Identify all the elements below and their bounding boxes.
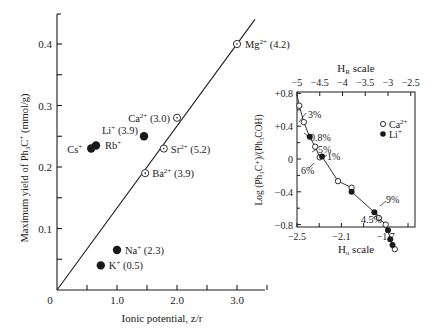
x-tick-label: 3.0 [230,294,244,306]
main-plot: 1.02.03.00.10.20.30.4 Mg2+ (4.2)Ca2+ (3.… [18,14,290,324]
top-tick-label: −4 [337,77,348,88]
data-point-center [163,148,165,150]
point-label-sr: Sr2+ (5.2) [171,143,211,156]
ho-scale-label: Ho scale [338,243,374,257]
inset-y-tick-label: −0.4 [275,187,293,198]
legend-open-marker [380,121,385,126]
origin-label: 0 [47,294,53,306]
inset-y-tick-label: 0 [288,154,293,165]
y-axis-label: Maximum yield of Ph3C+ (mmol/g) [18,93,32,243]
annotation-label: 9% [386,194,399,205]
point-label-rb: Rb+ [105,139,121,151]
y-tick-label: 0.2 [38,161,52,173]
inset-point-ca [335,178,340,183]
inset-y-tick-label: +0.4 [275,121,293,132]
annotation-label: 0.8% [310,132,331,143]
top-tick-label: −3 [383,77,394,88]
data-point-center [144,172,146,174]
data-point-filled [140,132,148,140]
data-point-center [176,117,178,119]
bottom-tick-label: −2.5 [288,231,306,242]
top-tick-label: −2.5 [402,77,420,88]
inset-point-li [390,242,396,248]
main-data-points [87,40,241,269]
inset-point-ca [297,103,302,108]
point-label-li: Li+ (3.9) [102,124,139,137]
data-point-filled [92,141,100,149]
inset-y-axis-label: Log (Ph₃C⁺)/(Ph₃COH) [254,114,265,205]
annotation-label: 6% [301,165,314,176]
point-label-mg: Mg2+ (4.2) [245,38,290,51]
data-point-center [236,43,238,45]
point-label-na: Na+ (2.3) [125,244,164,257]
point-label-ca: Ca2+ (3.0) [128,112,170,125]
annotation-label: 3% [308,109,321,120]
inset-point-ca [383,222,388,227]
legend-filled-marker [380,131,386,137]
bottom-tick-label: −2.1 [332,231,350,242]
top-tick-label: −3.5 [356,77,374,88]
inset-plot: −5−4.5−4−3.5−3−2.5−2.5−2.1−1.7+0.8+0.40−… [254,62,420,257]
x-axis-label: Ionic potential, z/r [122,312,203,324]
inset-y-tick-label: +0.8 [275,88,293,99]
y-tick-label: 0.4 [38,38,52,50]
inset-y-tick-label: −0.8 [275,220,293,231]
inset-point-ca [301,119,306,124]
data-point-filled [113,246,121,254]
y-tick-label: 0.3 [38,100,52,112]
top-tick-label: −4.5 [311,77,329,88]
inset-point-li [349,189,355,195]
point-label-k: K+ (0.5) [109,259,144,272]
annotation-label: 1% [327,151,340,162]
x-tick-label: 1.0 [110,294,124,306]
chart-figure: 1.02.03.00.10.20.30.4 Mg2+ (4.2)Ca2+ (3.… [0,0,437,333]
y-tick-label: 0.1 [38,223,52,235]
annotation-label: 4.5% [361,214,382,225]
inset-point-li [387,236,393,242]
inset-point-li [385,227,391,233]
hr-scale-label: HR scale [337,62,374,76]
top-tick-label: −5 [292,77,303,88]
legend-li-label: Li+ [389,128,402,140]
inset-legend: Ca2+ Li+ [380,118,407,140]
point-label-ba: Ba2+ (3.9) [152,167,194,180]
x-tick-label: 2.0 [170,294,184,306]
data-point-filled [97,261,105,269]
point-label-cs: Cs+ [67,143,82,155]
